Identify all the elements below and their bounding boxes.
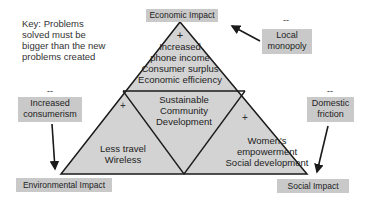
key-line: Key: Problems bbox=[22, 18, 105, 29]
key-note: Key: Problems solved must be bigger than… bbox=[22, 18, 105, 62]
local-monopoly-box: Local monopoly bbox=[262, 29, 312, 54]
text-line: Consumer surplus bbox=[130, 63, 230, 74]
minus-sign-economic: -- bbox=[280, 15, 292, 25]
text-line: Social development bbox=[222, 157, 312, 168]
plus-sign-right: + bbox=[239, 112, 251, 123]
text-line: Development bbox=[134, 116, 234, 127]
arrow-consumerism bbox=[52, 124, 55, 169]
text-line: friction bbox=[307, 109, 354, 120]
economic-positives: + Increased phone income Consumer surplu… bbox=[130, 30, 230, 85]
text-line: consumerism bbox=[18, 109, 82, 120]
text-line: monopoly bbox=[262, 41, 312, 52]
key-line: solved must be bbox=[22, 29, 105, 40]
plus-sign-left: + bbox=[117, 100, 129, 111]
text-line: empowerment bbox=[222, 146, 312, 157]
text-line: Community bbox=[134, 105, 234, 116]
text-line: Increased bbox=[130, 41, 230, 52]
environmental-positives: Less travel Wireless bbox=[88, 143, 158, 165]
text-line: Economic efficiency bbox=[130, 74, 230, 85]
center-label: Sustainable Community Development bbox=[134, 94, 234, 127]
key-line: bigger than the new bbox=[22, 40, 105, 51]
arrow-friction bbox=[317, 126, 328, 172]
increased-consumerism-box: Increased consumerism bbox=[18, 97, 82, 122]
text-line: Women's bbox=[222, 135, 312, 146]
text-line: Increased bbox=[18, 98, 82, 109]
arrow-monopoly bbox=[232, 26, 260, 41]
environmental-impact-label: Environmental Impact bbox=[16, 178, 112, 192]
key-line: problems created bbox=[22, 51, 105, 62]
minus-sign-social: -- bbox=[324, 86, 336, 96]
text-line: Wireless bbox=[88, 154, 158, 165]
text-line: Less travel bbox=[88, 143, 158, 154]
social-impact-label: Social Impact bbox=[277, 179, 349, 193]
economic-impact-label: Economic Impact bbox=[146, 9, 218, 22]
domestic-friction-box: Domestic friction bbox=[307, 97, 354, 122]
plus-sign: + bbox=[130, 30, 230, 41]
minus-sign-environmental: -- bbox=[44, 86, 56, 96]
text-line: Domestic bbox=[307, 98, 354, 109]
text-line: Sustainable bbox=[134, 94, 234, 105]
text-line: phone income bbox=[130, 52, 230, 63]
text-line: Local bbox=[262, 30, 312, 41]
social-positives: Women's empowerment Social development bbox=[222, 135, 312, 168]
